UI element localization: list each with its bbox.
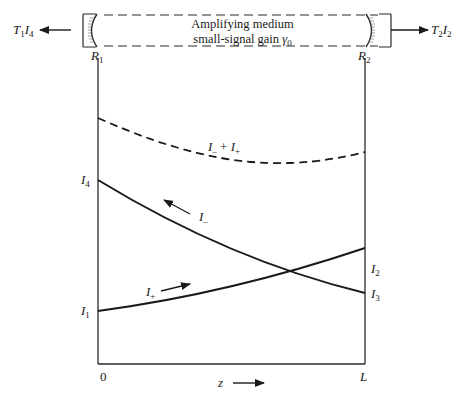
x-axis-start-label: 0 xyxy=(100,370,107,383)
i-plus-direction-arrow-icon xyxy=(161,284,190,291)
amplifying-medium-label: Amplifying medium small-signal gain γ0 xyxy=(150,17,335,51)
i3-label: I3 xyxy=(371,287,380,303)
diagram-canvas xyxy=(0,0,458,403)
sum-curve-label: I– + I+ xyxy=(208,140,240,156)
output-left-label: T1I4 xyxy=(13,23,34,39)
mirror-r2-icon xyxy=(366,14,391,47)
x-axis-variable-label: z xyxy=(218,376,223,389)
output-right-label: T2I2 xyxy=(431,23,452,39)
i-minus-direction-arrow-icon xyxy=(164,200,190,214)
mirror-r1-label: R1 xyxy=(91,49,103,65)
plot-axes xyxy=(98,58,365,364)
medium-title: Amplifying medium xyxy=(150,17,335,32)
i-minus-curve xyxy=(98,180,365,293)
mirror-r2-label: R2 xyxy=(358,49,370,65)
i-minus-label: I– xyxy=(199,210,208,226)
i-plus-curve xyxy=(98,248,365,311)
i2-label: I2 xyxy=(371,262,380,278)
medium-gain-line: small-signal gain γ0 xyxy=(150,32,335,51)
mirror-r1-icon xyxy=(83,14,97,47)
i4-label: I4 xyxy=(81,173,90,189)
x-axis-end-label: L xyxy=(360,370,367,383)
i1-label: I1 xyxy=(81,304,90,320)
i-plus-label: I+ xyxy=(146,285,155,301)
